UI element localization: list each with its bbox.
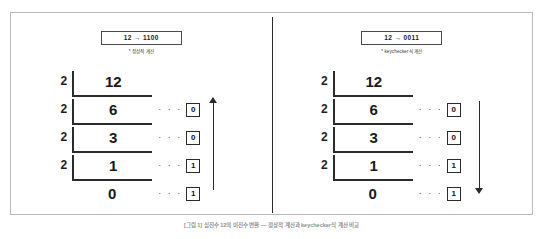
divisor: 2 [311,127,333,147]
dividend: 1 [335,155,413,176]
dividend: 3 [74,127,152,148]
arrow-shaft [213,101,214,190]
remainder-group: · · · 1 [419,155,461,176]
panel-keychecker-calculation: 12 → 0011 * keychecker식 계산 2 12 · · · 2 … [272,13,533,214]
panel-note-keychecker: * keychecker식 계산 [272,48,533,54]
divisor: 2 [311,71,333,91]
dividend: 12 [74,71,152,92]
division-bracket: 0 [72,183,152,209]
division-row: 2 12 · · · [50,71,232,99]
remainder-box: 0 [447,103,461,117]
dividend: 6 [74,99,152,120]
remainder-group: · · · 0 [419,127,461,148]
panel-normal-calculation: 12 → 1100 * 정상적 계산 2 12 · · · 2 6 [11,13,272,214]
ellipsis-dots: · · · [158,161,186,170]
panel-header-keychecker: 12 → 0011 * keychecker식 계산 [272,26,533,54]
dividend: 6 [335,99,413,120]
divisor: 2 [311,155,333,175]
divisor: 2 [50,155,72,175]
ellipsis-dots: · · · [419,161,447,170]
division-row: 2 1 · · · 1 [50,155,232,183]
remainder-box: 0 [186,103,200,117]
read-direction-arrow-up-icon [208,97,220,194]
division-row: 2 1 · · · 1 [311,155,493,183]
ellipsis-dots: · · · [419,189,447,198]
division-bracket: 1 [333,155,413,181]
remainder-box: 1 [447,159,461,173]
division-block-normal: 2 12 · · · 2 6 · · · 0 [50,71,232,211]
division-bracket: 6 [333,99,413,125]
divisor: 2 [50,127,72,147]
division-bracket: 12 [333,71,413,97]
division-row: 0 · · · 1 [50,183,232,211]
figure-frame: 12 → 1100 * 정상적 계산 2 12 · · · 2 6 [10,12,533,215]
division-row: 2 3 · · · 0 [50,127,232,155]
dividend: 0 [72,183,152,204]
remainder-group: · · · 1 [158,183,200,204]
division-row: 2 6 · · · 0 [311,99,493,127]
remainder-box: 0 [186,131,200,145]
division-bracket: 6 [72,99,152,125]
conversion-label-keychecker: 12 → 0011 [361,31,442,45]
conversion-label-normal: 12 → 1100 [101,31,182,45]
ellipsis-dots: · · · [419,133,447,142]
divisor: 2 [311,99,333,119]
ellipsis-dots: · · · [158,133,186,142]
divisor: 2 [50,99,72,119]
division-bracket: 3 [72,127,152,153]
dividend: 3 [335,127,413,148]
arrow-head [209,97,217,103]
division-row: 2 12 · · · [311,71,493,99]
remainder-group: · · · 0 [419,99,461,120]
division-row: 2 6 · · · 0 [50,99,232,127]
ellipsis-dots: · · · [158,105,186,114]
division-row: 2 3 · · · 0 [311,127,493,155]
panel-note-normal: * 정상적 계산 [11,48,272,54]
remainder-group: · · · 1 [419,183,461,204]
divisor: 2 [50,71,72,91]
read-direction-arrow-down-icon [474,97,486,194]
remainder-group: · · · 1 [158,155,200,176]
figure-caption: [그림 1] 십진수 12의 이진수 변환 — 정상적 계산과 keycheck… [0,221,543,229]
division-block-keychecker: 2 12 · · · 2 6 · · · 0 [311,71,493,211]
remainder-group: · · · 0 [158,127,200,148]
remainder-group: · · · 0 [158,99,200,120]
ellipsis-dots: · · · [158,189,186,198]
division-bracket: 12 [72,71,152,97]
ellipsis-dots: · · · [419,105,447,114]
division-bracket: 3 [333,127,413,153]
arrow-head [475,188,483,194]
division-row: 0 · · · 1 [311,183,493,211]
division-bracket: 1 [72,155,152,181]
remainder-box: 0 [447,131,461,145]
panel-header-normal: 12 → 1100 * 정상적 계산 [11,26,272,54]
division-bracket: 0 [333,183,413,209]
dividend: 12 [335,71,413,92]
remainder-box: 1 [186,187,200,201]
dividend: 1 [74,155,152,176]
remainder-box: 1 [186,159,200,173]
remainder-box: 1 [447,187,461,201]
arrow-shaft [479,101,480,190]
dividend: 0 [333,183,413,204]
